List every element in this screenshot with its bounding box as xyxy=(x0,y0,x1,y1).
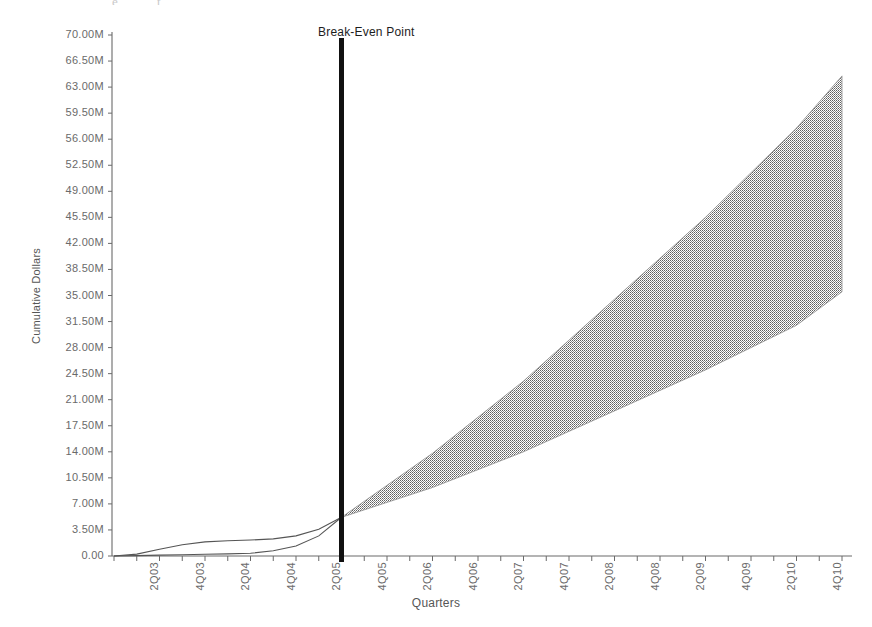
x-tick-label: 4Q10 xyxy=(831,562,843,622)
x-tick-label: 4Q03 xyxy=(194,562,206,622)
break-even-point-label: Break-Even Point xyxy=(318,25,415,39)
x-tick-label: 4Q08 xyxy=(649,562,661,622)
x-tick-label: 4Q05 xyxy=(376,562,388,622)
chart-container: e t Cumulative Dollars Quarters 0.003.50… xyxy=(0,0,872,627)
x-tick-label: 2Q03 xyxy=(148,562,160,622)
x-tick-label: 4Q06 xyxy=(467,562,479,622)
x-tick-label: 2Q07 xyxy=(512,562,524,622)
x-tick-label: 2Q09 xyxy=(694,562,706,622)
x-tick-label: 2Q05 xyxy=(330,562,342,622)
x-tick-label: 2Q06 xyxy=(421,562,433,622)
x-tick-label: 4Q04 xyxy=(285,562,297,622)
x-tick-label: 4Q09 xyxy=(740,562,752,622)
x-tick-label: 2Q04 xyxy=(239,562,251,622)
x-tick-label: 4Q07 xyxy=(558,562,570,622)
x-axis-tick-labels: 2Q034Q032Q044Q042Q054Q052Q064Q062Q074Q07… xyxy=(0,0,872,627)
x-tick-label: 2Q08 xyxy=(603,562,615,622)
x-tick-label: 2Q10 xyxy=(785,562,797,622)
